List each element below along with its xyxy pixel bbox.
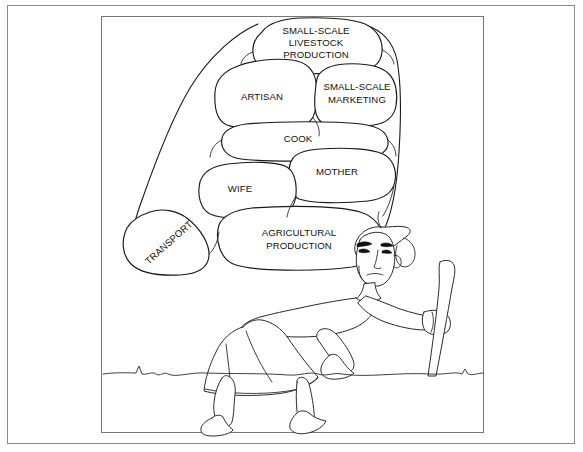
label-marketing-line2: MARKETING xyxy=(328,94,386,105)
sack-livestock-crease2 xyxy=(382,50,394,64)
label-artisan: ARTISAN xyxy=(241,91,283,102)
label-wife: WIFE xyxy=(228,183,252,194)
screenshot-canvas: SMALL-SCALE LIVESTOCK PRODUCTION ARTISAN… xyxy=(0,0,583,452)
crease-f xyxy=(210,140,222,157)
label-agriculture-line2: PRODUCTION xyxy=(266,240,332,251)
label-cook: COOK xyxy=(284,133,313,144)
arm xyxy=(358,296,428,330)
label-livestock-line3: PRODUCTION xyxy=(283,49,349,60)
trailing-foot xyxy=(290,411,326,434)
face xyxy=(356,232,395,286)
illustration-artwork: SMALL-SCALE LIVESTOCK PRODUCTION ARTISAN… xyxy=(0,0,583,452)
label-livestock-line1: SMALL-SCALE xyxy=(282,25,349,36)
label-mother: MOTHER xyxy=(316,166,358,177)
crease-b xyxy=(388,140,396,156)
label-livestock-line2: LIVESTOCK xyxy=(289,37,344,48)
label-marketing-line1: SMALL-SCALE xyxy=(323,81,390,92)
label-agriculture-line1: AGRICULTURAL xyxy=(262,227,337,238)
